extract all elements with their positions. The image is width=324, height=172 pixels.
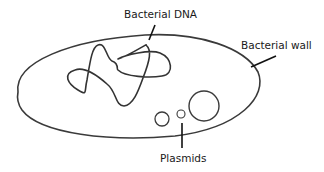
plasmid-small [155, 112, 169, 126]
plasmid-large [189, 91, 219, 121]
label-bacterial-wall: Bacterial wall [241, 40, 312, 51]
label-plasmids: Plasmids [160, 153, 206, 164]
diagram-canvas [0, 0, 324, 172]
plasmid-tiny [177, 110, 185, 118]
label-bacterial-dna: Bacterial DNA [124, 9, 197, 20]
leader-line-dna [149, 25, 155, 40]
bacterial-dna-loop [68, 45, 171, 106]
bacterial-cell-diagram: Bacterial DNA Bacterial wall Plasmids [0, 0, 324, 172]
leader-line-wall [251, 56, 276, 67]
bacterial-wall-outline [17, 35, 259, 138]
